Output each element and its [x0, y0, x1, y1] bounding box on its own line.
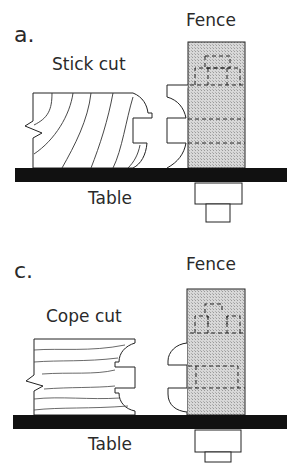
- table-label-a: Table: [87, 188, 132, 208]
- arbor-nut-a: [195, 183, 242, 204]
- panel-c-cope-cut: c. Cope cut Fence Table: [13, 254, 287, 462]
- cope-cutter-profile: [168, 343, 187, 412]
- panel-letter-c: c.: [14, 258, 33, 283]
- cope-workpiece: [26, 339, 135, 415]
- fence-label-c: Fence: [186, 254, 236, 274]
- stick-cut-label: Stick cut: [52, 54, 126, 74]
- fence-c: [187, 289, 245, 415]
- arbor-shaft-c: [205, 452, 231, 462]
- arbor-shaft-a: [206, 204, 230, 222]
- cope-cut-label: Cope cut: [46, 306, 122, 326]
- fence-a: [188, 42, 245, 168]
- stick-workpiece: [25, 93, 152, 168]
- table-c: [13, 415, 287, 429]
- router-table-diagram: a. Stick cut Fence Table: [0, 0, 295, 468]
- panel-a-stick-cut: a. Stick cut Fence Table: [14, 10, 287, 222]
- stick-cutter-profile: [167, 85, 188, 168]
- table-label-c: Table: [87, 434, 132, 454]
- table-a: [15, 168, 287, 182]
- panel-letter-a: a.: [14, 22, 34, 47]
- fence-label-a: Fence: [186, 10, 236, 30]
- arbor-nut-c: [195, 430, 241, 452]
